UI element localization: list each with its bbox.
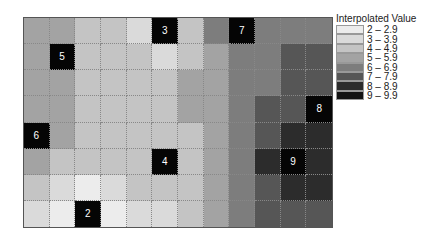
- sample-point-label: 7: [239, 25, 245, 36]
- grid-cell: [306, 201, 332, 227]
- grid-cell: [75, 70, 101, 96]
- legend-swatch: [336, 81, 364, 90]
- grid-cell: [281, 96, 307, 122]
- grid-cell: [24, 96, 50, 122]
- grid-cell: [229, 44, 255, 70]
- legend-title: Interpolated Value: [336, 13, 416, 24]
- grid-cell: [204, 44, 230, 70]
- grid-cell: [255, 96, 281, 122]
- sample-point: 5: [50, 44, 76, 70]
- legend-swatch: [336, 91, 364, 100]
- legend-swatch: [336, 44, 364, 53]
- grid-cell: [229, 70, 255, 96]
- grid-cell: [101, 149, 127, 175]
- grid-cell: [127, 175, 153, 201]
- grid-cell: [306, 18, 332, 44]
- grid-cell: [178, 18, 204, 44]
- grid-cell: [178, 149, 204, 175]
- grid-cell: [178, 123, 204, 149]
- legend-label: 9 – 9.9: [367, 91, 398, 100]
- legend-swatch: [336, 25, 364, 34]
- grid-cell: [101, 175, 127, 201]
- grid-cell: [50, 175, 76, 201]
- sample-point-label: 5: [59, 51, 65, 62]
- legend-swatch: [336, 72, 364, 81]
- sample-point: 4: [152, 149, 178, 175]
- grid-cell: [127, 18, 153, 44]
- grid-cell: [178, 175, 204, 201]
- grid-cell: [281, 44, 307, 70]
- grid-cell: [306, 123, 332, 149]
- grid-cell: [127, 201, 153, 227]
- grid-cell: [204, 96, 230, 122]
- grid-cell: [306, 175, 332, 201]
- grid-cell: [281, 175, 307, 201]
- grid-cell: [152, 96, 178, 122]
- grid-cell: [101, 70, 127, 96]
- grid-cell: [75, 44, 101, 70]
- legend-swatch: [336, 53, 364, 62]
- grid-cell: [152, 70, 178, 96]
- grid-cell: [75, 96, 101, 122]
- grid-cell: [204, 201, 230, 227]
- grid-cell: [24, 201, 50, 227]
- grid-cell: [152, 44, 178, 70]
- grid-cell: [204, 149, 230, 175]
- grid-cell: [255, 70, 281, 96]
- grid-cell: [127, 70, 153, 96]
- grid-cell: [50, 70, 76, 96]
- grid-cell: [178, 44, 204, 70]
- sample-point: 8: [306, 96, 332, 122]
- grid-cell: [127, 44, 153, 70]
- grid-cell: [101, 44, 127, 70]
- grid-cell: [75, 18, 101, 44]
- sample-point-label: 9: [290, 156, 296, 167]
- grid-cell: [255, 18, 281, 44]
- legend-label: 7 – 7.9: [367, 72, 398, 81]
- grid-cell: [204, 123, 230, 149]
- grid-cell: [281, 201, 307, 227]
- grid-cell: [178, 96, 204, 122]
- grid-cell: [50, 96, 76, 122]
- sample-point: 6: [24, 123, 50, 149]
- sample-point: 9: [281, 149, 307, 175]
- legend-swatch: [336, 34, 364, 43]
- grid-cell: [255, 44, 281, 70]
- grid-cell: [229, 201, 255, 227]
- grid-cell: [50, 149, 76, 175]
- grid-cell: [281, 70, 307, 96]
- grid-cell: [127, 96, 153, 122]
- grid-cell: [306, 70, 332, 96]
- sample-point-label: 2: [85, 208, 91, 219]
- grid-cell: [24, 149, 50, 175]
- grid-cell: [152, 201, 178, 227]
- legend-swatch: [336, 63, 364, 72]
- grid-cell: [306, 149, 332, 175]
- grid-cell: [152, 123, 178, 149]
- grid-cell: [50, 123, 76, 149]
- grid-cell: [281, 18, 307, 44]
- sample-point-label: 4: [162, 156, 168, 167]
- grid-cell: [178, 70, 204, 96]
- grid-cell: [101, 201, 127, 227]
- grid-cell: [229, 175, 255, 201]
- grid-cell: [24, 70, 50, 96]
- grid-cell: [127, 149, 153, 175]
- grid-cell: [75, 175, 101, 201]
- grid-cell: [24, 175, 50, 201]
- legend-item: 9 – 9.9: [336, 91, 416, 100]
- sample-point: 2: [75, 201, 101, 227]
- grid-cell: [204, 18, 230, 44]
- grid-cell: [75, 149, 101, 175]
- grid-cell: [101, 96, 127, 122]
- sample-point-label: 3: [162, 25, 168, 36]
- grid-cell: [306, 44, 332, 70]
- legend: Interpolated Value 2 – 2.93 – 3.94 – 4.9…: [336, 13, 416, 100]
- legend-label: 2 – 2.9: [367, 25, 398, 34]
- grid-cell: [101, 18, 127, 44]
- grid-cell: [204, 70, 230, 96]
- interpolation-grid: 37586492: [23, 17, 333, 228]
- grid-cell: [152, 175, 178, 201]
- sample-point: 7: [229, 18, 255, 44]
- grid-cell: [178, 201, 204, 227]
